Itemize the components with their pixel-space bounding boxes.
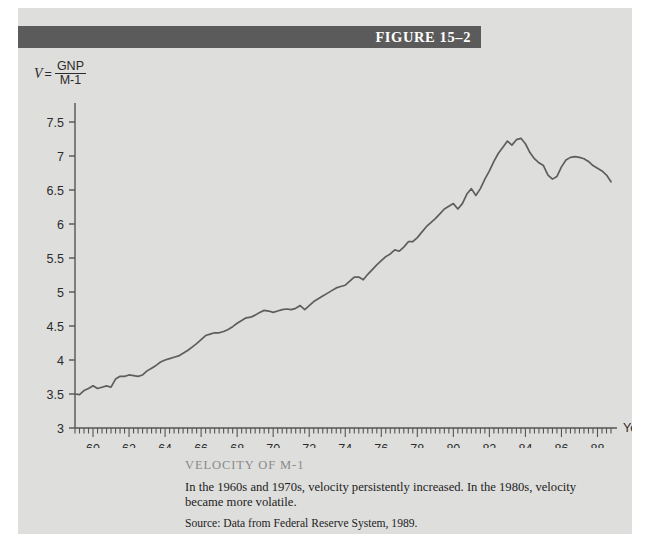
x-tick-label: 64 xyxy=(158,442,172,448)
x-tick-label: 86 xyxy=(555,442,569,448)
caption-block: VELOCITY OF M-1 In the 1960s and 1970s, … xyxy=(185,458,610,531)
x-tick-label: 80 xyxy=(446,442,460,448)
y-tick-label: 4.5 xyxy=(47,320,64,334)
x-tick-label: 66 xyxy=(194,442,208,448)
velocity-line-chart: 33.544.555.566.577.560626466687072747678… xyxy=(18,48,632,448)
y-tick-label: 6 xyxy=(57,218,64,232)
data-line-velocity xyxy=(75,138,611,394)
x-tick-label: 62 xyxy=(122,442,136,448)
x-tick-label: 78 xyxy=(410,442,424,448)
x-tick-label: 88 xyxy=(591,442,605,448)
y-tick-label: 6.5 xyxy=(47,184,64,198)
y-tick-label: 3 xyxy=(57,422,64,436)
figure-label: FIGURE 15–2 xyxy=(375,27,471,47)
y-tick-label: 3.5 xyxy=(47,388,64,402)
x-tick-label: 70 xyxy=(266,442,280,448)
y-tick-label: 4 xyxy=(57,354,64,368)
x-tick-label: 84 xyxy=(518,442,532,448)
y-tick-label: 5 xyxy=(57,286,64,300)
figure-panel: FIGURE 15–2 V = GNP M-1 33.544.555.566.5… xyxy=(18,8,632,534)
y-tick-label: 7.5 xyxy=(47,116,64,130)
x-axis-name: Year xyxy=(623,421,632,435)
x-tick-label: 74 xyxy=(338,442,352,448)
caption-body: In the 1960s and 1970s, velocity persist… xyxy=(185,480,610,510)
caption-title: VELOCITY OF M-1 xyxy=(185,458,610,473)
x-tick-label: 68 xyxy=(230,442,244,448)
figure-header-bar: FIGURE 15–2 xyxy=(18,26,481,48)
x-tick-label: 72 xyxy=(302,442,316,448)
x-tick-label: 60 xyxy=(86,442,100,448)
y-tick-label: 7 xyxy=(57,150,64,164)
caption-source: Source: Data from Federal Reserve System… xyxy=(185,517,610,531)
x-tick-label: 76 xyxy=(374,442,388,448)
x-tick-label: 82 xyxy=(482,442,496,448)
y-tick-label: 5.5 xyxy=(47,252,64,266)
chart-plot-area: V = GNP M-1 33.544.555.566.577.560626466… xyxy=(18,48,632,448)
